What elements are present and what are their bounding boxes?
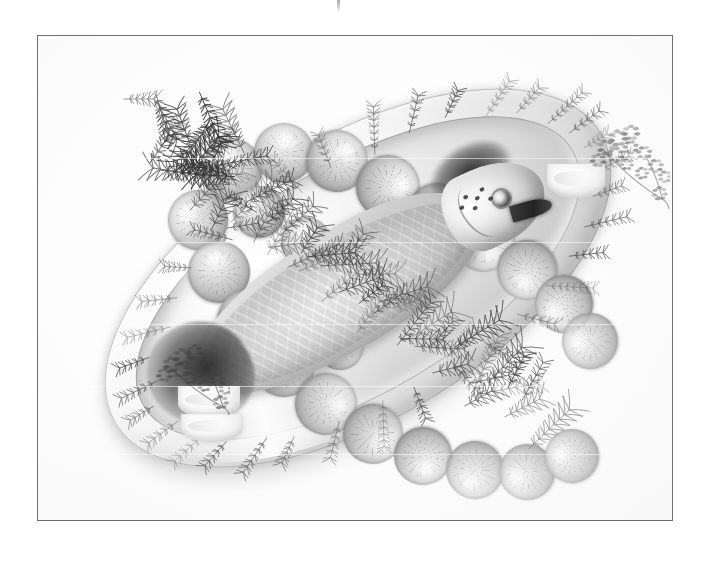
scan-seam [38,242,672,243]
photo-frame [37,35,673,521]
crop-tick-mark [337,0,340,12]
scan-seam [38,158,672,159]
parsley-sprig [142,340,230,420]
food-photograph [38,36,672,520]
scan-seam [38,386,672,387]
scan-seam [38,454,672,455]
scan-seam [38,324,672,325]
garnish-bottom-left [38,36,672,520]
screenshot-canvas [0,0,712,562]
